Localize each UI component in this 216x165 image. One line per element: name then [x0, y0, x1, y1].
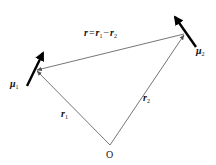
- mu2-label: μ2: [195, 45, 205, 57]
- r1-label: r1: [61, 108, 68, 120]
- vector-r1-arrow: [37, 71, 110, 145]
- vector-r2-arrow: [110, 35, 184, 145]
- origin-label: O: [106, 149, 113, 160]
- dipole-mu2-arrow: [175, 17, 196, 47]
- equation-label: r=r1−r2: [84, 27, 117, 39]
- dipole-diagram: r=r1−r2 μ1 μ2 r1 r2 O: [0, 0, 216, 165]
- vector-r-arrow: [37, 34, 184, 70]
- r2-label: r2: [143, 92, 150, 104]
- mu1-label: μ1: [9, 78, 19, 90]
